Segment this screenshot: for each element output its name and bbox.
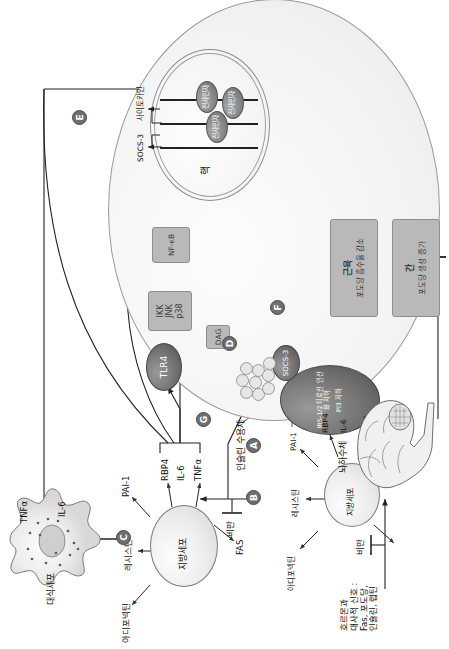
brain-label: 뇌하수체 — [336, 441, 349, 473]
diagram-root: 핵 SOCS-3 사이토카인 전사인자 전사인자 전사인자 인슐린 수용체 IR… — [0, 0, 449, 649]
adipocyte-obese-il6: IL-6 — [177, 465, 187, 481]
tag-c: C — [116, 530, 131, 545]
macrophage-il6: IL-6 — [58, 501, 68, 517]
hormone-note-line-4: 인슐린, 렙틴 — [369, 583, 379, 631]
adipocyte-obese-adiponectin: 아디포넥틴 — [122, 603, 132, 643]
adipocyte-lean-pai1: PAI-1 — [290, 432, 299, 451]
macrophage-tnfa: TNFα — [20, 501, 30, 523]
lipid-droplet — [249, 376, 262, 389]
tag-g: G — [196, 412, 211, 427]
adipocyte-lean-il6: IL-6 — [340, 419, 349, 433]
tag-a: A — [246, 438, 261, 453]
lipid-droplet — [262, 369, 275, 382]
outcome-liver-organ: 간 — [405, 264, 416, 272]
tag-f: F — [270, 300, 285, 315]
tag-d: D — [222, 336, 237, 351]
tlr4-receptor: TLR4 — [146, 343, 182, 391]
tag-b: B — [246, 490, 261, 505]
adipocyte-obese-pai1: PAI-1 — [122, 476, 132, 497]
transcription-factor-1: 전사인자 — [206, 111, 228, 143]
insulin-receptor-label: 인슐린 수용체 — [236, 420, 246, 471]
transcription-factor-3: 전사인자 — [196, 81, 218, 113]
obesity-label-adipocyte: 비만 — [226, 521, 236, 537]
lipid-droplet — [262, 382, 275, 395]
outcome-liver-box: 간 포도당 생성 증가 — [392, 219, 440, 317]
kinase-complex-box: IKK JNK p38 — [148, 291, 192, 331]
p38-label: p38 — [175, 303, 185, 318]
hormone-note: 호르몬과 대사적 신호 : Fas, 포도당, 인슐린, 렙틴 — [340, 583, 379, 631]
adipocyte-obese-rbp4: RBP4 — [161, 459, 171, 481]
adipocyte-obese-name: 지방세포 — [176, 538, 189, 570]
outcome-liver-effect: 포도당 생성 증가 — [418, 241, 427, 295]
adipocyte-obese-tnfa: TNFα — [194, 459, 204, 481]
lipid-droplet-cluster — [236, 357, 274, 401]
outcome-muscle-box: 근육 포도당 흡수율 감소 — [330, 219, 378, 317]
adipocyte-lean-resistin: 레시스틴 — [292, 489, 301, 517]
obesity-label-brain: 비만 — [356, 539, 366, 555]
adipocyte-lean-adiponectin: 아디포넥틴 — [288, 556, 297, 591]
lipid-droplet — [240, 362, 253, 375]
transcription-factor-2: 전사인자 — [222, 87, 244, 119]
socs3-protein: SOCS-3 — [272, 345, 300, 381]
brain-shape — [352, 387, 438, 499]
irs-line-2: PI3 저하 — [336, 388, 343, 412]
brain-body — [352, 387, 438, 499]
adipocyte-obese-fas: FAS — [236, 540, 246, 555]
lipid-droplet — [236, 374, 249, 387]
lipid-droplet — [263, 357, 276, 370]
tag-e: E — [72, 110, 87, 125]
nfkb-box: NF-κB — [152, 227, 190, 263]
jnk-label: JNK — [165, 304, 175, 318]
macrophage-name: 대식세포 — [44, 573, 57, 605]
ikk-label: IKK — [156, 305, 166, 318]
figure-canvas: 핵 SOCS-3 사이토카인 전사인자 전사인자 전사인자 인슐린 수용체 IR… — [0, 0, 449, 649]
outcome-muscle-effect: 포도당 흡수율 감소 — [356, 238, 365, 299]
adipocyte-lean-rbp4: RBP4 — [322, 413, 331, 433]
outcome-muscle-organ: 근육 — [343, 260, 354, 276]
